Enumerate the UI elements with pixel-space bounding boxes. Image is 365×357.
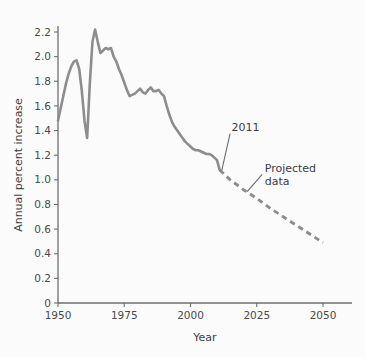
x-tick-label: 1950 <box>45 309 72 321</box>
chart-figure: 00.20.40.60.81.01.21.41.61.82.02.2 19501… <box>0 0 365 357</box>
annotation-2011-label: 2011 <box>232 121 260 134</box>
y-tick-label: 0 <box>44 297 51 309</box>
x-tick-label: 1975 <box>111 309 138 321</box>
y-tick-label: 2.2 <box>34 26 51 38</box>
x-tick-label: 2025 <box>243 309 270 321</box>
y-tick-label: 1.8 <box>34 75 51 87</box>
y-tick-label: 1.6 <box>34 100 51 112</box>
line-chart: 00.20.40.60.81.01.21.41.61.82.02.2 19501… <box>0 0 365 357</box>
y-tick-label: 2.0 <box>34 50 51 62</box>
y-tick-label: 0.4 <box>34 247 51 259</box>
annotation-projected-label-line1: Projected <box>265 162 316 175</box>
y-axis-title: Annual percent increase <box>12 98 25 232</box>
y-tick-label: 0.8 <box>34 198 51 210</box>
y-tick-label: 0.6 <box>34 223 51 235</box>
y-tick-label: 0.2 <box>34 272 51 284</box>
x-tick-label: 2050 <box>310 309 337 321</box>
annotation-projected-label-line2: data <box>265 175 290 188</box>
y-tick-label: 1.2 <box>34 149 51 161</box>
y-tick-label: 1.4 <box>34 124 51 136</box>
y-tick-label: 1.0 <box>34 173 51 185</box>
x-tick-label: 2000 <box>177 309 204 321</box>
x-axis-title: Year <box>192 331 217 344</box>
